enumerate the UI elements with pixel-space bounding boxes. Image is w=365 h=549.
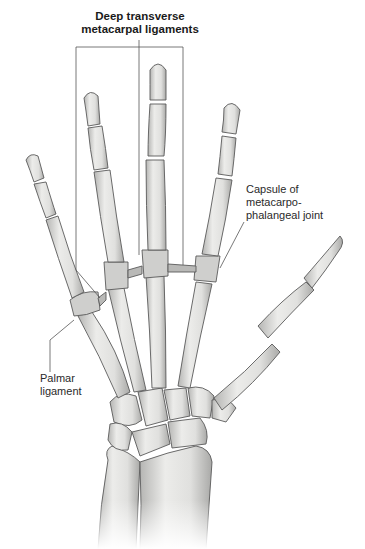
label-line: Deep transverse	[78, 10, 202, 23]
hand-skeleton-illustration	[0, 0, 365, 549]
label-line: Palmar	[40, 372, 82, 385]
distal-phalanges	[26, 64, 343, 288]
label-line: metacarpal ligaments	[78, 23, 202, 36]
middle-phalanges	[34, 104, 236, 218]
label-line: metacarpo-	[246, 196, 323, 209]
label-line: Capsule of	[246, 183, 323, 196]
label-deep-transverse-metacarpal-ligaments: Deep transverse metacarpal ligaments	[78, 10, 202, 36]
palmar-leader	[50, 320, 74, 372]
label-line: ligament	[40, 385, 82, 398]
label-palmar-ligament: Palmar ligament	[40, 372, 82, 398]
label-capsule-mcp-joint: Capsule of metacarpo- phalangeal joint	[246, 183, 323, 222]
label-line: phalangeal joint	[246, 209, 323, 222]
